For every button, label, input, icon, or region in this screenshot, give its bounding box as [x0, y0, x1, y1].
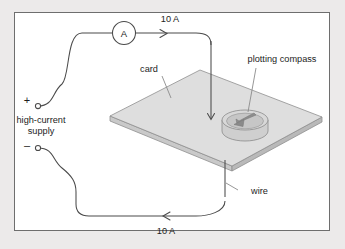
wire-ammeter-to-card: [136, 33, 211, 45]
minus-sign-label: –: [24, 139, 31, 151]
supply-label-line1: high-current: [16, 115, 65, 125]
current-label-top: 10 A: [161, 14, 180, 24]
wire-leader-line: [226, 183, 238, 190]
wire-label: wire: [250, 186, 268, 196]
plotting-compass-object: [222, 110, 268, 141]
card-top-surface: [110, 70, 322, 166]
minus-terminal-node: [35, 145, 40, 150]
plus-terminal-node: [35, 103, 40, 108]
supply-label-line2: supply: [28, 126, 55, 136]
plus-sign-label: +: [24, 94, 30, 106]
wire-minus-to-bottom: [38, 148, 225, 216]
card-object: [110, 70, 322, 171]
ammeter-label: A: [121, 28, 128, 39]
card-label: card: [140, 64, 158, 74]
current-label-bottom: 10 A: [157, 226, 176, 236]
compass-dial: [227, 113, 264, 129]
circuit-diagram: A 10 A 10 A + – high-current supply card…: [0, 0, 345, 249]
compass-label: plotting compass: [248, 54, 317, 64]
wire-plus-to-ammeter: [38, 33, 112, 106]
